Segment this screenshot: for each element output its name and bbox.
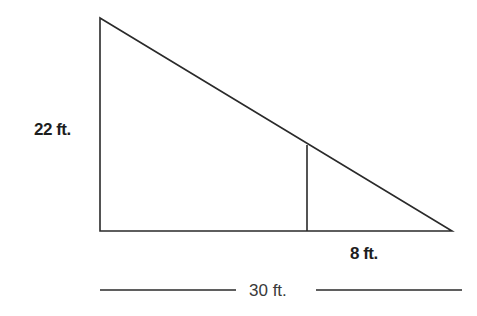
total-base-label: 30 ft. [249,281,287,300]
similar-triangles-diagram: 22 ft. 8 ft. 30 ft. [0,0,477,316]
small-base-label: 8 ft. [350,244,378,263]
height-label: 22 ft. [34,120,71,139]
large-right-triangle [100,18,452,231]
